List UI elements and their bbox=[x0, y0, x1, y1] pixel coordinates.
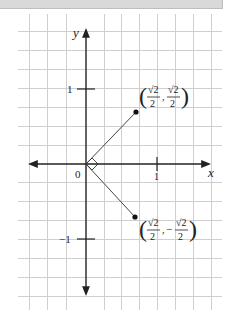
point-label-upper: ( √2 2 , √2 2 ) bbox=[139, 83, 189, 109]
svg-text:√2: √2 bbox=[148, 84, 159, 95]
x-tick-label-1: 1 bbox=[154, 171, 159, 182]
svg-text:,: , bbox=[162, 224, 165, 235]
svg-text:2: 2 bbox=[150, 98, 155, 109]
vector-upper bbox=[86, 112, 136, 164]
svg-text:): ) bbox=[189, 216, 197, 242]
svg-text:√2: √2 bbox=[148, 217, 159, 228]
svg-text:2: 2 bbox=[150, 231, 155, 242]
svg-text:2: 2 bbox=[170, 98, 175, 109]
y-tick-label-1: 1 bbox=[67, 83, 73, 95]
svg-text:): ) bbox=[181, 83, 189, 109]
svg-text:−: − bbox=[166, 223, 172, 235]
svg-text:√2: √2 bbox=[176, 217, 187, 228]
point-lower bbox=[132, 214, 137, 219]
x-axis-label: x bbox=[207, 165, 214, 180]
point-label-lower: ( √2 2 , − √2 2 ) bbox=[139, 216, 197, 242]
grid bbox=[18, 14, 222, 310]
y-axis-label: y bbox=[71, 25, 79, 40]
origin-label: 0 bbox=[75, 168, 81, 180]
svg-text:2: 2 bbox=[178, 231, 183, 242]
y-tick-label-neg1: −1 bbox=[59, 233, 71, 245]
vector-lower bbox=[86, 164, 135, 217]
coordinate-plane: y x 0 1 1 −1 ( √2 2 , √2 2 ) ( √2 2 , − … bbox=[0, 0, 235, 324]
svg-text:(: ( bbox=[139, 83, 147, 109]
svg-text:(: ( bbox=[139, 216, 147, 242]
svg-text:,: , bbox=[162, 91, 165, 102]
svg-text:√2: √2 bbox=[168, 84, 179, 95]
point-upper bbox=[133, 109, 138, 114]
